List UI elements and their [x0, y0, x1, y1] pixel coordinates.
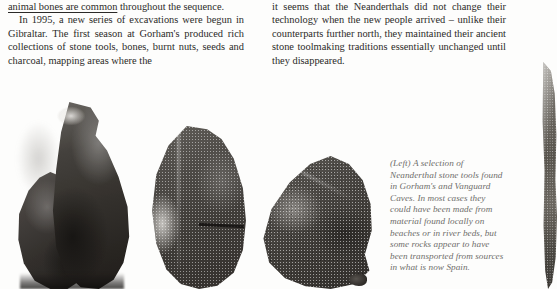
continued-line-rest: throughout the sequence.: [117, 1, 224, 12]
caption-line: been transported from sources: [390, 251, 522, 263]
figure-caption: (Left) A selection of Neanderthal stone …: [390, 158, 522, 274]
stone-1-light-chip: [54, 104, 88, 130]
stone-1-bottom-rim: [20, 273, 124, 289]
stone-2-grain-texture: [146, 126, 248, 289]
caption-line: Caves. In most cases they: [390, 193, 522, 205]
stone-3-protrusion: [349, 274, 367, 286]
neanderthal-stone-tool-photo-4: [541, 62, 557, 289]
paragraph-1995-excavations: In 1995, a new series of excavations wer…: [8, 13, 244, 67]
caption-line: Neanderthal stone tools found: [390, 170, 522, 182]
paragraph-continued: animal bones are common throughout the s…: [8, 0, 244, 13]
paragraph-neanderthal-technology: it seems that the Neanderthals did not c…: [272, 0, 506, 67]
caption-line: some rocks appear to have: [390, 239, 522, 251]
stone-tool-image-1: [4, 100, 132, 289]
caption-line: in what is now Spain.: [390, 262, 522, 274]
caption-line: in Gorham's and Vanguard: [390, 181, 522, 193]
text-column-left: animal bones are common throughout the s…: [8, 0, 244, 67]
stone-2-highlight-edge: [177, 133, 180, 270]
neanderthal-stone-tool-photo-1: [4, 100, 132, 289]
stone-tool-image-4: [541, 62, 557, 289]
neanderthal-stone-tool-photo-2: [146, 126, 248, 289]
stone-tool-image-3: [260, 156, 374, 289]
caption-line: beaches or in river beds, but: [390, 228, 522, 240]
stone-tool-image-2: [146, 126, 248, 289]
stone-4-grain-texture: [541, 62, 557, 289]
text-column-right: it seems that the Neanderthals did not c…: [272, 0, 506, 67]
neanderthal-stone-tool-photo-3: [260, 156, 374, 289]
caption-line: could have been made from: [390, 204, 522, 216]
stone-3-grain-texture: [260, 156, 374, 289]
caption-line: material found locally on: [390, 216, 522, 228]
caption-line: (Left) A selection of: [390, 158, 522, 170]
document-page: animal bones are common throughout the s…: [0, 0, 557, 289]
underlined-phrase: animal bones are common: [8, 1, 117, 12]
